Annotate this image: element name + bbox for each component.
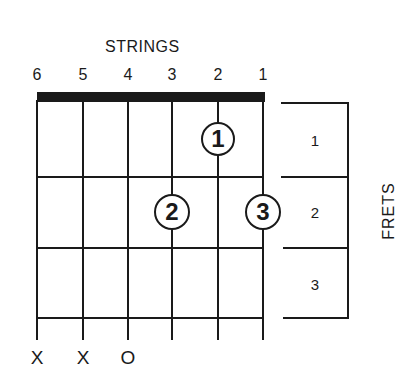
- string-line-5: [82, 100, 84, 340]
- fret-line-3: [36, 317, 264, 319]
- string-number-4: 4: [118, 67, 138, 83]
- string-line-6: [36, 100, 38, 340]
- fret-line-2: [36, 247, 264, 249]
- fret-box-divider-2: [283, 247, 349, 249]
- strings-title: STRINGS: [105, 38, 180, 56]
- string-number-1: 1: [253, 67, 273, 83]
- string-number-6: 6: [27, 67, 47, 83]
- string-number-3: 3: [162, 67, 182, 83]
- fret-box-top: [281, 102, 349, 104]
- finger-1-marker: 1: [201, 122, 235, 156]
- mute-marker-string-5: X: [73, 348, 93, 367]
- fret-number-1: 1: [282, 132, 348, 149]
- fret-box-divider-1: [281, 176, 349, 178]
- finger-3-marker: 3: [245, 194, 281, 230]
- finger-2-marker: 2: [154, 194, 190, 230]
- open-marker-string-4: O: [118, 348, 138, 367]
- string-number-2: 2: [208, 67, 228, 83]
- fret-line-1: [36, 176, 264, 178]
- fret-number-3: 3: [282, 276, 348, 293]
- frets-title: FRETS: [380, 171, 398, 251]
- string-line-4: [127, 100, 129, 340]
- fret-box-bottom: [283, 317, 349, 319]
- mute-marker-string-6: X: [27, 348, 47, 367]
- string-number-5: 5: [73, 67, 93, 83]
- fret-number-2: 2: [282, 204, 348, 221]
- nut: [37, 92, 265, 102]
